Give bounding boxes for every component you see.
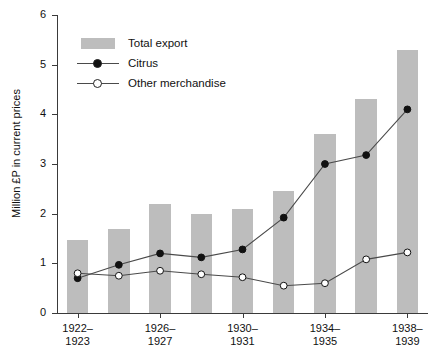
y-tick-label: 1 xyxy=(8,257,46,268)
legend-label-citrus: Citrus xyxy=(128,57,158,70)
y-tick-label: 6 xyxy=(8,9,46,20)
data-point-other-merchandise xyxy=(404,249,411,256)
y-tick xyxy=(52,15,57,16)
x-tick-label: 1922–1923 xyxy=(43,322,113,348)
legend-item-total-export: Total export xyxy=(77,35,226,52)
data-point-other-merchandise xyxy=(74,270,81,277)
x-tick xyxy=(78,313,79,318)
data-point-citrus xyxy=(157,250,164,257)
legend-label-other-merchandise: Other merchandise xyxy=(128,77,226,90)
x-tick-label-line2: 1923 xyxy=(65,335,89,347)
data-point-citrus xyxy=(322,161,329,168)
x-tick-label: 1926–1927 xyxy=(125,322,195,348)
legend-item-citrus: Citrus xyxy=(77,55,226,72)
data-point-other-merchandise xyxy=(322,280,329,287)
data-point-citrus xyxy=(239,246,246,253)
y-tick-label: 0 xyxy=(8,307,46,318)
x-tick-label: 1930–1931 xyxy=(208,322,278,348)
y-tick xyxy=(52,263,57,264)
x-tick-label-line1: 1922– xyxy=(62,322,93,334)
legend-swatch-icon xyxy=(77,37,119,50)
legend-label-total-export: Total export xyxy=(128,37,187,50)
y-axis-label: Million £P in current prices xyxy=(11,54,22,254)
data-point-citrus xyxy=(404,106,411,113)
x-tick xyxy=(407,313,408,318)
data-point-citrus xyxy=(198,254,205,261)
y-axis-line xyxy=(57,15,58,314)
x-tick-label-line1: 1930– xyxy=(227,322,258,334)
data-point-other-merchandise xyxy=(280,282,287,289)
x-tick-label-line1: 1934– xyxy=(310,322,341,334)
x-tick-label: 1938–1939 xyxy=(372,322,435,348)
x-tick-label-line2: 1939 xyxy=(395,335,419,347)
data-point-citrus xyxy=(363,152,370,159)
x-tick-label-line1: 1938– xyxy=(392,322,423,334)
data-point-other-merchandise xyxy=(115,272,122,279)
y-tick xyxy=(52,164,57,165)
x-tick xyxy=(160,313,161,318)
data-point-other-merchandise xyxy=(363,256,370,263)
x-tick-label-line1: 1926– xyxy=(145,322,176,334)
legend-line-filled-dot-icon xyxy=(77,57,119,70)
x-tick xyxy=(243,313,244,318)
x-tick-label-line2: 1935 xyxy=(313,335,337,347)
legend-line-hollow-dot-icon xyxy=(77,77,119,90)
chart-legend: Total export Citrus Other merchandise xyxy=(77,35,226,95)
chart-figure: 0123456 1922–19231926–19271930–19311934–… xyxy=(0,0,435,362)
data-point-other-merchandise xyxy=(157,267,164,274)
data-point-citrus xyxy=(115,261,122,268)
y-tick xyxy=(52,114,57,115)
x-tick-label-line2: 1927 xyxy=(148,335,172,347)
data-point-other-merchandise xyxy=(239,274,246,281)
x-tick-label-line2: 1931 xyxy=(230,335,254,347)
y-tick xyxy=(52,214,57,215)
y-tick xyxy=(52,65,57,66)
data-point-citrus xyxy=(280,214,287,221)
x-tick xyxy=(325,313,326,318)
legend-item-other-merchandise: Other merchandise xyxy=(77,75,226,92)
data-point-other-merchandise xyxy=(198,271,205,278)
x-tick-label: 1934–1935 xyxy=(290,322,360,348)
y-tick xyxy=(52,313,57,314)
